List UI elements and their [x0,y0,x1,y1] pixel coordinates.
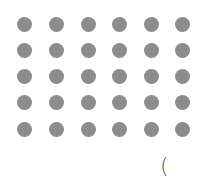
grid-dot [175,17,190,32]
grid-dot [175,43,190,58]
grid-dot [175,122,190,137]
grid-dot [175,69,190,84]
grid-dot [17,122,32,137]
grid-dot [49,69,64,84]
grid-dot [17,43,32,58]
grid-dot [17,17,32,32]
grid-dot [144,69,159,84]
grid-dot [144,17,159,32]
grid-dot [17,69,32,84]
grid-dot [112,17,127,32]
grid-dot [144,122,159,137]
grid-dot [49,43,64,58]
grid-dot [112,95,127,110]
grid-dot [17,95,32,110]
grid-dot [81,69,96,84]
grid-dot [49,17,64,32]
grid-dot [49,122,64,137]
grid-dot [112,69,127,84]
grid-dot [175,95,190,110]
grid-dot [81,17,96,32]
grid-dot [49,95,64,110]
grid-dot [112,43,127,58]
grid-dot [81,122,96,137]
grid-dot [144,95,159,110]
grid-dot [144,43,159,58]
grid-dot [112,122,127,137]
grid-dot [81,95,96,110]
dot-grid [0,0,200,186]
partial-character: ( [160,154,169,178]
grid-dot [81,43,96,58]
